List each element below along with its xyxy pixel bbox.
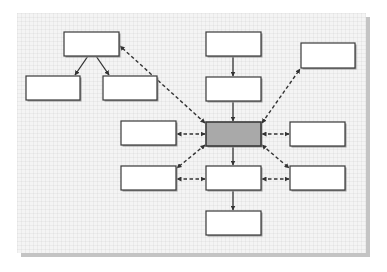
edge-g-f-dashed-bidirectional-arrow [262, 69, 300, 123]
node-box-e [206, 77, 261, 101]
node-box-a [64, 32, 119, 56]
central-node-box [206, 122, 261, 146]
edge-a-b-solid-arrow [75, 56, 88, 75]
edges-layer [75, 46, 300, 210]
edge-g-l-dashed-bidirectional-arrow [262, 145, 289, 168]
node-box-l [290, 166, 345, 190]
node-box-f [301, 43, 355, 68]
node-box-d [206, 32, 261, 56]
edge-g-j-dashed-bidirectional-arrow [177, 145, 205, 168]
diagram-canvas [0, 0, 387, 272]
edge-a-c-solid-arrow [96, 56, 109, 75]
node-box-b [26, 76, 80, 100]
node-box-j [121, 166, 176, 190]
node-box-c [103, 76, 157, 100]
node-box-h [121, 121, 176, 145]
node-box-k [206, 166, 261, 190]
node-box-m [206, 211, 261, 235]
diagram-graph [0, 0, 387, 272]
node-box-i [290, 122, 345, 146]
